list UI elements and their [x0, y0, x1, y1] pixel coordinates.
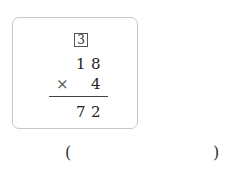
problem-card: 3 1 8 × 4 7 2 — [12, 17, 138, 129]
multiplier-digit: 4 — [91, 76, 101, 92]
product-tens-digit: 7 — [76, 104, 86, 120]
product-ones-digit: 2 — [91, 104, 101, 120]
close-parenthesis: ) — [213, 143, 219, 162]
multiplicand-ones-digit: 8 — [91, 56, 101, 72]
result-divider-line — [49, 96, 108, 97]
multiply-operator: × — [56, 76, 69, 92]
problem-number-badge: 3 — [74, 33, 88, 47]
multiplicand-tens-digit: 1 — [76, 56, 86, 72]
open-parenthesis: ( — [65, 143, 71, 162]
